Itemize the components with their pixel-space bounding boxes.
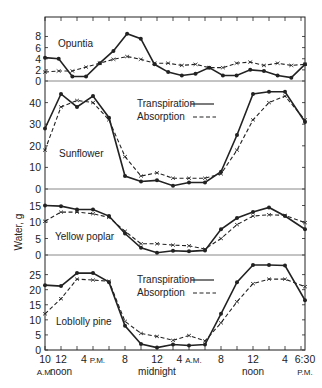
x-tick-label: 6:30 — [295, 353, 316, 365]
chart-figure: 02468Opuntia010203040SunflowerTranspirat… — [0, 0, 322, 388]
y-tick-label: 8 — [35, 30, 41, 42]
y-axis-label: Water, g — [13, 214, 24, 251]
panel-label: Yellow poplar — [55, 231, 115, 242]
chart-panels: 02468Opuntia010203040SunflowerTranspirat… — [29, 30, 307, 356]
legend-transpiration-label: Transpiration — [137, 274, 195, 285]
y-tick-label: 5 — [35, 329, 41, 341]
panel-label: Loblolly pine — [56, 316, 112, 327]
legend-absorption-label: Absorption — [137, 287, 185, 298]
absorption-line — [45, 57, 305, 73]
y-tick-label: 0 — [35, 183, 41, 195]
x-tick-label: 8 — [122, 353, 128, 365]
panel-yellow-poplar: 051015Yellow poplar — [29, 200, 307, 262]
panel-sunflower: 010203040SunflowerTranspirationAbsorptio… — [29, 90, 307, 195]
panel-label: Opuntia — [58, 38, 93, 49]
x-tick-label: 8 — [218, 353, 224, 365]
x-tick-label: 4 A.M. — [176, 353, 201, 365]
y-tick-label: 6 — [35, 42, 41, 54]
x-tick-label: 12 — [151, 353, 163, 365]
x-tick-sublabel: midnight — [138, 366, 176, 377]
legend-transpiration-label: Transpiration — [137, 98, 195, 109]
y-tick-label: 20 — [29, 284, 41, 296]
y-tick-label: 10 — [29, 161, 41, 173]
x-tick-label: 4 — [282, 353, 288, 365]
x-tick-sublabel: noon — [50, 366, 72, 377]
figure-caption — [0, 378, 322, 388]
y-tick-label: 0 — [35, 249, 41, 261]
y-tick-label: 20 — [29, 140, 41, 152]
y-tick-label: 30 — [29, 118, 41, 130]
x-tick-label: 10 — [39, 353, 51, 365]
panel-loblolly-pine: 0510152025Loblolly pineTranspirationAbso… — [29, 263, 307, 356]
x-tick-label: 12 — [247, 353, 259, 365]
legend-absorption-label: Absorption — [137, 111, 185, 122]
panel-opuntia: 02468Opuntia — [35, 30, 307, 87]
y-tick-label: 40 — [29, 97, 41, 109]
y-tick-label: 10 — [29, 314, 41, 326]
y-tick-label: 10 — [29, 216, 41, 228]
y-tick-label: 0 — [35, 75, 41, 87]
y-tick-label: 2 — [35, 64, 41, 76]
y-tick-label: 4 — [35, 53, 41, 65]
legend: TranspirationAbsorption — [137, 274, 216, 298]
x-tick-label: 4 P.M. — [81, 353, 105, 365]
panel-label: Sunflower — [59, 148, 104, 159]
x-tick-sublabel: noon — [242, 366, 264, 377]
x-tick-label: 12 — [55, 353, 67, 365]
legend: TranspirationAbsorption — [137, 98, 216, 122]
y-tick-label: 5 — [35, 233, 41, 245]
x-tick-sublabel: P.M. — [297, 368, 312, 377]
y-tick-label: 25 — [29, 269, 41, 281]
y-tick-label: 15 — [29, 299, 41, 311]
y-tick-label: 15 — [29, 200, 41, 212]
